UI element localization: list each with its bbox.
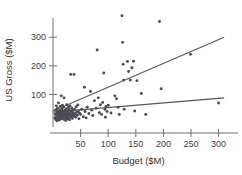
data-point [93, 99, 96, 102]
axes [49, 18, 238, 137]
scatter-chart: 50100150200250300100200300Budget ($M)US … [0, 0, 242, 175]
data-point [121, 41, 124, 44]
plot-area: 50100150200250300100200300Budget ($M)US … [0, 0, 242, 175]
data-point [85, 116, 88, 119]
data-points [53, 14, 220, 122]
data-point [133, 110, 136, 113]
data-point [63, 96, 66, 99]
x-tick-label: 100 [101, 139, 116, 149]
data-point [69, 73, 72, 76]
data-point [89, 90, 92, 93]
data-point [73, 108, 76, 111]
data-point [91, 114, 94, 117]
data-point [113, 94, 116, 97]
data-point [132, 60, 135, 63]
data-point [135, 79, 138, 82]
data-point [99, 103, 102, 106]
data-point [115, 97, 118, 100]
data-point [62, 106, 65, 109]
x-tick-label: 150 [128, 139, 143, 149]
data-point [97, 96, 100, 99]
x-tick-label: 250 [183, 139, 198, 149]
y-tick-label: 200 [31, 61, 46, 71]
data-point [118, 113, 121, 116]
data-point [117, 106, 120, 109]
data-point [217, 102, 220, 105]
data-point [76, 104, 79, 107]
data-point [100, 113, 103, 116]
data-point [123, 108, 126, 111]
data-point [77, 117, 80, 120]
data-point [110, 112, 113, 115]
data-point [86, 106, 89, 109]
x-tick-label: 50 [76, 139, 86, 149]
data-point [107, 104, 110, 107]
data-point [106, 110, 109, 113]
data-point [96, 49, 99, 52]
data-point [60, 94, 63, 97]
data-point [158, 20, 161, 23]
data-point [122, 79, 125, 82]
x-tick-label: 200 [156, 139, 171, 149]
data-point [121, 14, 124, 17]
data-point [76, 114, 79, 117]
data-point [73, 73, 76, 76]
x-axis-title: Budget ($M) [112, 155, 164, 166]
y-tick-label: 100 [31, 90, 46, 100]
data-point [87, 112, 90, 115]
data-point [83, 86, 86, 89]
data-point [144, 113, 147, 116]
data-point [129, 79, 132, 82]
data-point [101, 101, 104, 104]
data-point [80, 108, 83, 111]
data-point [82, 115, 85, 118]
data-point [130, 66, 133, 69]
data-point [102, 72, 105, 75]
axis-labels: 50100150200250300100200300Budget ($M)US … [3, 32, 226, 166]
data-point [95, 107, 98, 110]
data-point [79, 113, 82, 116]
data-point [160, 87, 163, 90]
data-point [126, 60, 129, 63]
data-point [103, 108, 106, 111]
data-point [122, 63, 125, 66]
data-point [127, 70, 130, 73]
data-point [84, 110, 87, 113]
data-point [56, 107, 59, 110]
y-tick-label: 300 [31, 32, 46, 42]
y-axis-title: US Gross ($M) [3, 38, 14, 101]
x-tick-label: 300 [211, 139, 226, 149]
data-point [140, 92, 143, 95]
data-point [57, 102, 60, 105]
data-point [104, 116, 107, 119]
data-point [68, 118, 71, 121]
data-point [90, 109, 93, 112]
data-point [189, 53, 192, 56]
data-point [68, 108, 71, 111]
regression-lines [53, 37, 224, 112]
